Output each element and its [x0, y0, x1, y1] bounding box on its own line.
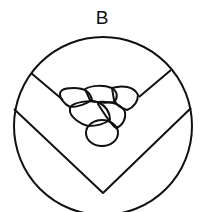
weld-beads: [60, 86, 138, 146]
weld-diagram: [0, 0, 199, 212]
